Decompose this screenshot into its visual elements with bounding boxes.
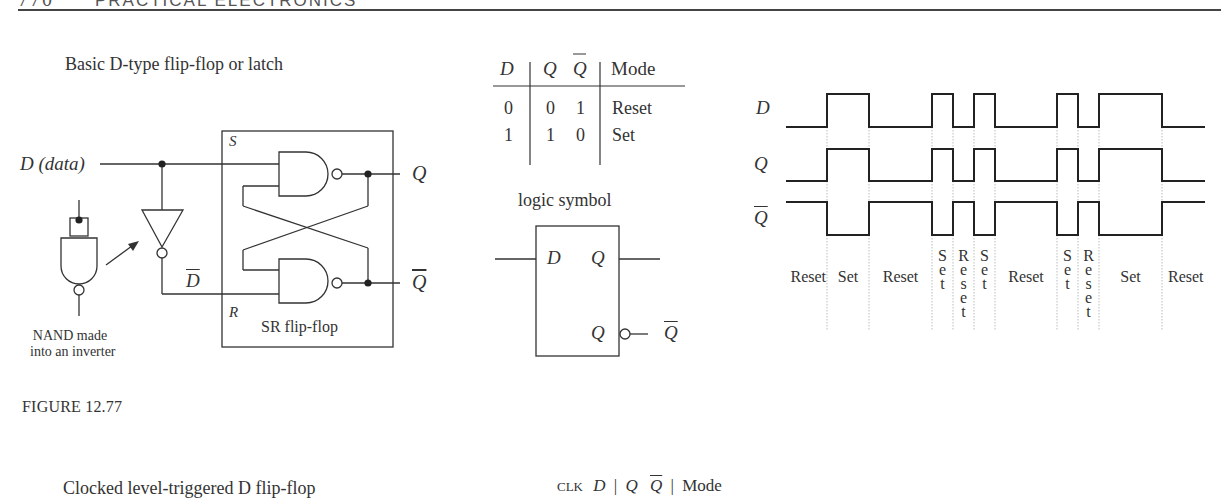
waveform-0 (786, 94, 1205, 127)
waveform-1 (786, 149, 1205, 181)
mode-label: Reset (1083, 249, 1095, 319)
waveform-2 (786, 202, 1205, 235)
mode-label: Reset (756, 268, 826, 286)
mode-label: Set (1062, 249, 1074, 291)
mode-label: Reset (1001, 268, 1051, 286)
timing-diagram (0, 0, 1221, 400)
mode-label: Set (1106, 268, 1156, 286)
mode-label: Set (937, 249, 949, 291)
next-truth-table-header: CLK D | Q Q | Mode (557, 476, 722, 496)
mode-label: Reset (1168, 268, 1218, 286)
mode-label: Reset (958, 249, 970, 319)
mode-label: Set (823, 268, 873, 286)
mode-label: Set (979, 249, 991, 291)
mode-label: Reset (876, 268, 926, 286)
next-figure-title: Clocked level-triggered D flip-flop (63, 478, 315, 499)
figure-label: FIGURE 12.77 (22, 398, 122, 416)
